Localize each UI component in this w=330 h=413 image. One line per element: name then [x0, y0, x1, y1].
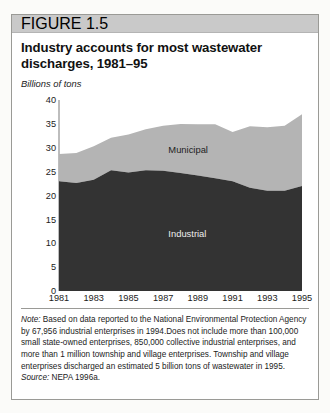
y-axis-tick-25: 25 [14, 167, 56, 177]
y-axis-tick-30: 30 [14, 143, 56, 153]
figure-number-band: FIGURE 1.5 [12, 15, 318, 33]
y-axis-unit-label: Billions of tons [12, 72, 318, 89]
stacked-area-plot [59, 100, 302, 291]
figure-note: Note: Based on data reported to the Nati… [12, 309, 318, 372]
area-chart-svg [59, 100, 302, 291]
x-axis-tick-1989: 1989 [188, 293, 208, 303]
x-axis-tick-1985: 1985 [118, 293, 138, 303]
y-axis-tick-35: 35 [14, 119, 56, 129]
figure-source: Source: NEPA 1996a. [12, 372, 318, 384]
figure-title: Industry accounts for most wastewater di… [12, 33, 318, 72]
x-axis-tick-1995: 1995 [292, 293, 312, 303]
x-axis-tick-labels: 19811983198519871989199119931995 [59, 293, 302, 307]
y-axis-tick-40: 40 [14, 95, 56, 105]
figure-page: FIGURE 1.5 Industry accounts for most wa… [0, 0, 330, 413]
figure-box: FIGURE 1.5 Industry accounts for most wa… [11, 14, 319, 400]
series-label-municipal: Municipal [168, 144, 208, 155]
note-text: Based on data reported to the National E… [21, 315, 306, 371]
source-label: Source: [21, 373, 49, 382]
y-axis-tick-15: 15 [14, 215, 56, 225]
figure-number-label: FIGURE 1.5 [21, 15, 108, 33]
x-axis-tick-1983: 1983 [83, 293, 103, 303]
x-axis-tick-1991: 1991 [222, 293, 242, 303]
x-axis-tick-1993: 1993 [257, 293, 277, 303]
x-axis-tick-1981: 1981 [49, 293, 69, 303]
x-axis-tick-1987: 1987 [153, 293, 173, 303]
source-text: NEPA 1996a. [49, 373, 100, 382]
chart-area: 0510152025303540 19811983198519871989199… [12, 92, 318, 302]
series-label-industrial: Industrial [168, 228, 206, 239]
note-label: Note: [21, 315, 41, 324]
y-axis-tick-10: 10 [14, 238, 56, 248]
y-axis-tick-labels: 0510152025303540 [12, 100, 56, 291]
y-axis-tick-5: 5 [14, 262, 56, 272]
y-axis-tick-20: 20 [14, 191, 56, 201]
